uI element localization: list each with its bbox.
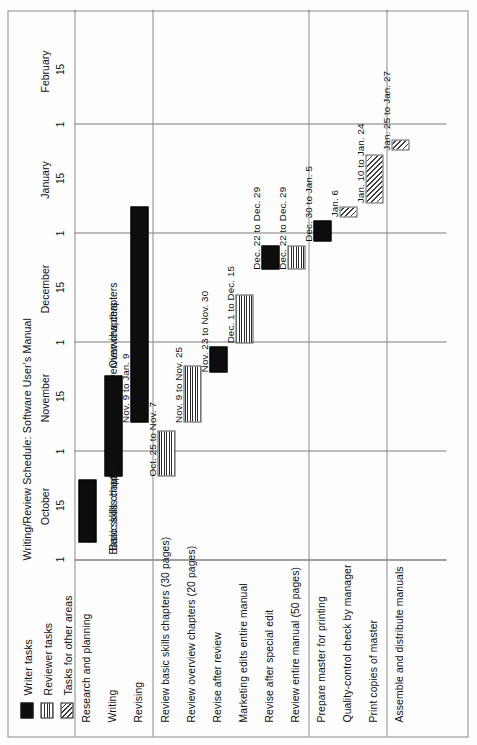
row-label: Review entire manual (50 pages): [289, 566, 300, 722]
row-label: Research and planning: [80, 613, 91, 722]
bar-date-note: Nov. 9 to Jan. 9: [119, 353, 130, 423]
axis-month-label: January: [38, 125, 50, 234]
bar-date-note: Jan. 10 to Jan. 24: [354, 123, 365, 203]
table-row[interactable]: Revise after special edit Dec. 22 to Dec…: [257, 9, 283, 736]
gantt-bar-diagonal-hatch[interactable]: Jan. 6: [339, 206, 357, 217]
bar-date-note: Dec. 1 to Dec. 15: [224, 265, 235, 342]
chart-frame: Writer tasks Reviewer tasks Tasks for ot…: [7, 10, 468, 737]
legend-item-label: Writer tasks: [21, 639, 33, 695]
legend-item-reviewer-tasks: Reviewer tasks: [38, 595, 55, 718]
axis-tick-label: 15: [54, 171, 65, 185]
table-row[interactable]: Revise after review Nov. 23 to Nov. 30: [205, 9, 231, 736]
axis-month-label: October: [38, 452, 50, 560]
inline-note: Basic skills chapters: [107, 461, 118, 554]
gantt-bar-horizontal-lines[interactable]: Dec. 22 to Dec. 29: [287, 245, 305, 270]
bar-date-note: Dec. 22 to Dec. 29: [276, 186, 287, 269]
horizontal-lines-swatch-icon: [40, 702, 53, 718]
axis-tick-label: 15: [54, 498, 65, 512]
time-axis: October November December January Februa…: [38, 17, 76, 560]
legend: Writer tasks Reviewer tasks Tasks for ot…: [18, 595, 78, 718]
axis-month-label: November: [38, 343, 50, 452]
axis-tick-label: 1: [54, 335, 65, 349]
gantt-bar-solid[interactable]: Nov. 9 to Jan. 9: [130, 206, 148, 422]
row-label: Marketing edits entire manual: [237, 583, 248, 722]
legend-item-label: Reviewer tasks: [41, 622, 53, 695]
gantt-chart-screenshot: Writer tasks Reviewer tasks Tasks for ot…: [0, 0, 477, 745]
row-label: Revise after review: [211, 632, 222, 722]
bar-date-note: Dec. 22 to Dec. 29: [250, 186, 261, 269]
inline-note: Overview chapters: [107, 282, 118, 367]
axis-month-label: December: [38, 234, 50, 343]
gantt-bar-solid[interactable]: Dec. 30 to Jan. 5: [313, 220, 331, 241]
bar-date-note: Jan. 25 to Jan. 27: [380, 70, 391, 150]
rotated-artwork: Writer tasks Reviewer tasks Tasks for ot…: [0, 0, 477, 745]
bar-date-note: Dec. 30 to Jan. 5: [302, 165, 313, 241]
gantt-bar-diagonal-hatch[interactable]: Jan. 25 to Jan. 27: [391, 139, 409, 150]
row-label: Review basic skills chapters (30 pages): [159, 536, 170, 722]
row-label: Writing: [106, 689, 117, 722]
gantt-bar-horizontal-lines[interactable]: Oct. 25 to Nov. 7: [157, 430, 175, 476]
axis-tick-label: 15: [54, 389, 65, 403]
row-label: Revising: [132, 681, 143, 722]
legend-item-label: Tasks for other areas: [61, 595, 73, 695]
row-label: Revise after special edit: [263, 609, 274, 722]
page-title: Writing/Review Schedule: Software User's…: [20, 317, 32, 560]
bar-date-note: Nov. 23 to Nov. 30: [198, 290, 209, 372]
table-row[interactable]: Marketing edits entire manual Dec. 1 to …: [231, 9, 257, 736]
gantt-bar-solid[interactable]: Nov. 23 to Nov. 30: [209, 346, 227, 371]
axis-tick-label: 15: [54, 62, 65, 76]
axis-month-label: February: [38, 17, 50, 125]
axis-tick-label: 1: [54, 552, 65, 566]
bar-date-note: Jan. 6: [328, 189, 339, 216]
diagonal-hatch-swatch-icon: [60, 702, 73, 718]
table-row[interactable]: Review overview chapters (20 pages) Nov.…: [179, 9, 205, 736]
table-row[interactable]: Quality-control check by manager Jan. 6: [335, 9, 361, 736]
gantt-bar-horizontal-lines[interactable]: Dec. 1 to Dec. 15: [235, 294, 253, 343]
table-row[interactable]: Revising Nov. 9 to Jan. 9: [126, 9, 152, 736]
row-label: Assemble and distribute manuals: [393, 566, 404, 722]
legend-item-other-areas: Tasks for other areas: [58, 595, 75, 718]
gantt-bar-diagonal-hatch[interactable]: Jan. 10 to Jan. 24: [365, 154, 383, 203]
table-row[interactable]: Research and planning: [74, 9, 100, 736]
axis-tick-label: 1: [54, 226, 65, 240]
gantt-bar-horizontal-lines[interactable]: Nov. 9 to Nov. 25: [183, 365, 201, 423]
solid-swatch-icon: [20, 702, 33, 718]
bar-date-note: Oct. 25 to Nov. 7: [146, 401, 157, 475]
row-label: Print copies of master: [367, 619, 378, 722]
legend-item-writer-tasks: Writer tasks: [18, 595, 35, 718]
axis-tick-label: 1: [54, 117, 65, 131]
axis-tick-label: 1: [54, 444, 65, 458]
table-row[interactable]: Assemble and distribute manuals Jan. 25 …: [387, 9, 413, 736]
row-label: Prepare master for printing: [315, 596, 326, 722]
row-label: Review overview chapters (20 pages): [185, 545, 196, 722]
axis-tick-label: 15: [54, 280, 65, 294]
row-label: Quality-control check by manager: [341, 564, 352, 722]
bar-date-note: Nov. 9 to Nov. 25: [172, 347, 183, 423]
gantt-bar-solid[interactable]: [78, 479, 96, 542]
table-row[interactable]: Prepare master for printing Dec. 30 to J…: [309, 9, 335, 736]
table-row[interactable]: Review entire manual (50 pages) Dec. 22 …: [283, 9, 309, 736]
